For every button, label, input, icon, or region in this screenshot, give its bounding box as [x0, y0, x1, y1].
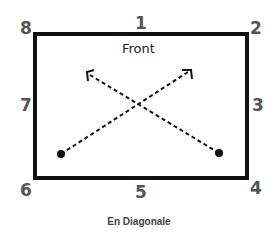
arrow-bottom-left-to-top-right — [57, 70, 192, 158]
arrow-bottom-right-to-top-left — [87, 70, 223, 157]
diagonal-arrows — [0, 0, 278, 245]
caption: En Diagonale — [0, 216, 278, 227]
